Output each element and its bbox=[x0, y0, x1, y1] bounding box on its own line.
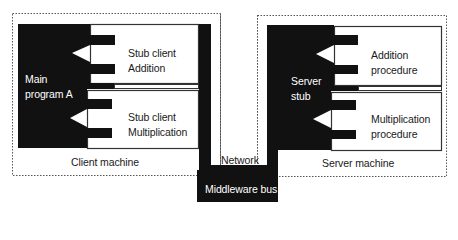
multiplication-procedure-label: Multiplication procedure bbox=[371, 112, 430, 142]
server-stub-label: Server stub bbox=[291, 74, 321, 104]
stub-client-multiplication-label: Stub client Multiplication bbox=[128, 110, 187, 140]
server-proc-separator bbox=[359, 87, 442, 91]
main-program-label: Main program A bbox=[25, 72, 73, 102]
server-machine-label: Server machine bbox=[322, 156, 394, 171]
network-label: Network bbox=[221, 153, 259, 168]
middleware-bus-label: Middleware bus bbox=[205, 182, 277, 197]
stub-client-addition-label: Stub client Addition bbox=[128, 46, 176, 76]
client-stub-separator bbox=[115, 85, 199, 89]
addition-procedure-label: Addition procedure bbox=[371, 48, 417, 78]
client-machine-label: Client machine bbox=[71, 155, 139, 170]
middleware-connector bbox=[197, 24, 278, 202]
